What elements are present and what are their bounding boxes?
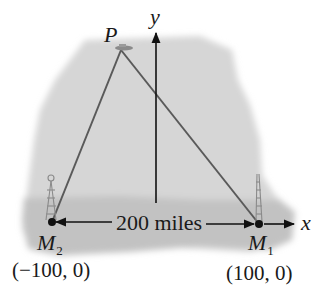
distance-label: 200 miles <box>116 212 202 234</box>
diagram-svg <box>0 0 323 302</box>
label-m1-subscript: 1 <box>267 243 274 258</box>
label-m1: M1 <box>248 232 274 254</box>
label-m2: M2 <box>37 232 63 254</box>
point-m1 <box>255 220 263 228</box>
label-m1-main: M <box>248 230 266 255</box>
point-m2 <box>48 218 56 226</box>
coord-m2: (−100, 0) <box>12 260 90 281</box>
label-p: P <box>104 24 117 46</box>
label-y-axis: y <box>150 6 160 28</box>
label-m2-main: M <box>37 230 55 255</box>
label-m2-subscript: 2 <box>56 243 63 258</box>
label-x-axis: x <box>301 212 311 234</box>
diagram-canvas: P y x 200 miles M2 M1 (−100, 0) (100, 0) <box>0 0 323 302</box>
coord-m1: (100, 0) <box>226 263 293 284</box>
